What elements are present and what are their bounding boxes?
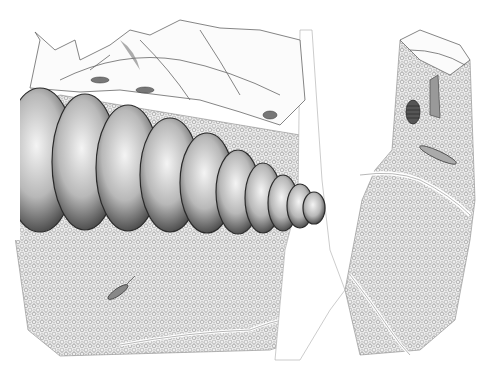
soil-cross-section-drawing (0, 0, 499, 372)
illustration-canvas: Pencil drawing of a soil cross-section w… (0, 0, 499, 372)
pupa (406, 100, 420, 124)
soil-right (345, 40, 475, 355)
